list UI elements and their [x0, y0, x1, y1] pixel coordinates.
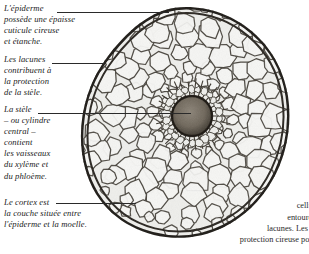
annotation-cortex-line-2: l'épiderme et la moelle. — [4, 219, 87, 230]
annotation-stele-line-5: du xylème et — [4, 159, 50, 170]
annotation-cortex-line-1: la couche située entre — [4, 208, 87, 219]
annotation-lacunes-line-2: la protection — [4, 76, 51, 87]
annotation-stele-line-3: contient — [4, 137, 50, 148]
leader-line-lacunes — [52, 63, 104, 64]
figure-canvas: L'épiderme possède une épaisse cuticule … — [0, 0, 309, 254]
right-caption-line-3: trav — [150, 189, 309, 200]
right-caption-line-4: cellules — [150, 200, 309, 211]
right-caption-line-1: i — [150, 166, 309, 177]
annotation-epiderme-line-1: possède une épaisse — [4, 14, 75, 25]
leader-line-stele — [38, 113, 191, 114]
annotation-epiderme-line-3: et étanche. — [4, 36, 75, 47]
annotation-epiderme: L'épiderme possède une épaisse cuticule … — [4, 3, 75, 47]
right-caption-line-2: tig — [150, 177, 309, 188]
right-caption-column: i tig trav cellules entourée d lacunes. … — [150, 166, 309, 246]
annotation-lacunes-line-1: contribuent à — [4, 65, 51, 76]
annotation-stele-line-2: central – — [4, 126, 50, 137]
annotation-stele-line-1: – ou cylindre — [4, 115, 50, 126]
annotation-epiderme-heading: L'épiderme — [4, 3, 75, 14]
right-caption-line-6: lacunes. Les cell — [150, 223, 309, 234]
right-caption-line-7: protection cireuse pour e — [150, 234, 309, 245]
annotation-lacunes: Les lacunes contribuent à la protection … — [4, 54, 51, 98]
annotation-cortex: Le cortex est la couche située entre l'é… — [4, 197, 87, 230]
annotation-stele-heading: La stèle — [4, 104, 50, 115]
annotation-stele-line-4: les vaisseaux — [4, 148, 50, 159]
annotation-stele: La stèle – ou cylindre central – contien… — [4, 104, 50, 182]
right-caption-line-5: entourée d — [150, 212, 309, 223]
annotation-lacunes-line-3: de la stèle. — [4, 87, 51, 98]
annotation-epiderme-line-2: cuticule cireuse — [4, 25, 75, 36]
annotation-lacunes-heading: Les lacunes — [4, 54, 51, 65]
annotation-cortex-heading: Le cortex est — [4, 197, 87, 208]
annotation-stele-line-6: du phloème. — [4, 171, 50, 182]
